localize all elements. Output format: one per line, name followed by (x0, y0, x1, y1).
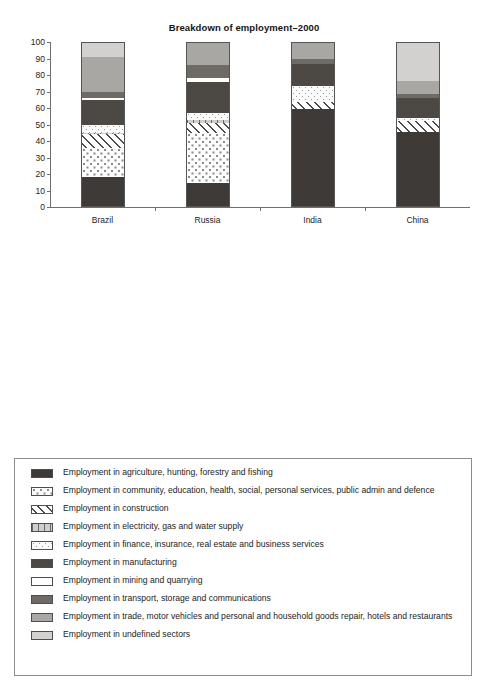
bar-segment-construction (81, 134, 125, 147)
legend-label: Employment in agriculture, hunting, fore… (63, 467, 273, 479)
y-axis-tick-mark (47, 141, 50, 142)
bar-segment-construction (186, 123, 230, 133)
y-axis-tick-label: 20 (36, 169, 45, 179)
y-axis-tick-mark (47, 75, 50, 76)
legend-swatch-agriculture-icon (31, 469, 53, 478)
bar-segment-agriculture (291, 109, 335, 207)
legend-label: Employment in construction (63, 503, 169, 515)
bar-segment-transport (291, 59, 335, 65)
legend-label: Employment in community, education, heal… (63, 485, 434, 497)
bar-segment-manufacturing (291, 64, 335, 85)
y-axis-tick-label: 90 (36, 54, 45, 64)
bar-segment-mining (81, 98, 125, 100)
legend-label: Employment in trade, motor vehicles and … (63, 611, 452, 623)
legend-item-agriculture[interactable]: Employment in agriculture, hunting, fore… (15, 467, 471, 479)
legend-swatch-construction-icon (31, 505, 53, 514)
bar-segment-trade (396, 81, 440, 94)
y-axis-tick-label: 50 (36, 120, 45, 130)
bar-segment-finance (396, 118, 440, 121)
legend-item-community[interactable]: Employment in community, education, heal… (15, 485, 471, 497)
legend-label: Employment in manufacturing (63, 557, 177, 569)
bar-segment-mining (186, 78, 230, 81)
legend-label: Employment in transport, storage and com… (63, 593, 271, 605)
y-axis-tick-label: 70 (36, 87, 45, 97)
legend-item-electricity[interactable]: Employment in electricity, gas and water… (15, 521, 471, 533)
x-axis-label-india: India (303, 215, 321, 225)
legend-swatch-manufacturing-icon (31, 559, 53, 568)
legend-label: Employment in mining and quarrying (63, 575, 202, 587)
y-axis-tick-label: 30 (36, 153, 45, 163)
bar-segment-trade (186, 42, 230, 65)
bar-segment-community (81, 148, 125, 178)
y-axis-line (50, 42, 51, 207)
y-axis-tick-mark (47, 207, 50, 208)
y-axis-tick-mark (47, 125, 50, 126)
bar-segment-agriculture (396, 132, 440, 207)
chart-title-2000: Breakdown of employment–2000 (0, 22, 488, 33)
legend-item-undefined[interactable]: Employment in undefined sectors (15, 629, 471, 641)
bar-segment-transport (396, 94, 440, 98)
legend-label: Employment in undefined sectors (63, 629, 190, 641)
x-axis-label-china: China (406, 215, 428, 225)
y-axis-tick-label: 100 (31, 37, 45, 47)
stacked-bar-russia (186, 42, 230, 207)
x-axis-label-brazil: Brazil (92, 215, 113, 225)
bar-segment-finance (186, 113, 230, 120)
y-axis-tick-mark (47, 42, 50, 43)
x-axis-tick-mark (365, 207, 366, 211)
y-axis-tick-label: 40 (36, 136, 45, 146)
bar-segment-construction (396, 121, 440, 132)
bar-segment-manufacturing (186, 82, 230, 113)
bar-segment-trade (81, 57, 125, 92)
bar-segment-community (186, 133, 230, 183)
bar-segment-manufacturing (396, 98, 440, 118)
y-axis-tick-label: 10 (36, 186, 45, 196)
legend-swatch-undefined-icon (31, 631, 53, 640)
y-axis-tick-mark (47, 92, 50, 93)
x-axis-tick-mark (155, 207, 156, 211)
bar-segment-electricity (81, 133, 125, 135)
stacked-bar-india (291, 42, 335, 207)
bar-segment-finance (291, 86, 335, 103)
legend-item-mining[interactable]: Employment in mining and quarrying (15, 575, 471, 587)
legend-item-construction[interactable]: Employment in construction (15, 503, 471, 515)
legend-swatch-community-icon (31, 487, 53, 496)
legend-label: Employment in electricity, gas and water… (63, 521, 243, 533)
legend-item-finance[interactable]: Employment in finance, insurance, real e… (15, 539, 471, 551)
legend-label: Employment in finance, insurance, real e… (63, 539, 324, 551)
chart-panel-2000: Breakdown of employment–2000 01020304050… (0, 0, 488, 235)
bar-segment-manufacturing (81, 100, 125, 125)
bar-segment-construction (291, 102, 335, 109)
bar-segment-transport (81, 92, 125, 99)
bar-segment-agriculture (81, 177, 125, 207)
bar-segment-undefined (81, 42, 125, 57)
stacked-bar-brazil (81, 42, 125, 207)
legend-swatch-finance-icon (31, 541, 53, 550)
plot-area-2000: 0102030405060708090100BrazilRussiaIndiaC… (50, 42, 470, 207)
y-axis-tick-mark (47, 174, 50, 175)
y-axis-tick-mark (47, 158, 50, 159)
legend-item-trade[interactable]: Employment in trade, motor vehicles and … (15, 611, 471, 623)
chart-panel-2010: Breakdown of employment–2010 -1020304050… (0, 235, 488, 453)
stacked-bar-china (396, 42, 440, 207)
legend-swatch-mining-icon (31, 577, 53, 586)
y-axis-tick-mark (47, 59, 50, 60)
y-axis-tick-label: 60 (36, 103, 45, 113)
y-axis-tick-label: 0 (40, 202, 45, 212)
x-axis-label-russia: Russia (195, 215, 221, 225)
y-axis-tick-mark (47, 191, 50, 192)
legend-swatch-transport-icon (31, 595, 53, 604)
y-axis-tick-label: 80 (36, 70, 45, 80)
legend-item-manufacturing[interactable]: Employment in manufacturing (15, 557, 471, 569)
legend-swatch-trade-icon (31, 613, 53, 622)
chart-legend: Employment in agriculture, hunting, fore… (14, 458, 472, 676)
x-axis-tick-mark (260, 207, 261, 211)
bar-segment-transport (186, 65, 230, 78)
bar-segment-trade (291, 42, 335, 59)
legend-swatch-electricity-icon (31, 523, 53, 532)
bar-segment-agriculture (186, 183, 230, 207)
bar-segment-undefined (396, 42, 440, 81)
y-axis-tick-mark (47, 108, 50, 109)
bar-segment-electricity (186, 120, 230, 122)
legend-item-transport[interactable]: Employment in transport, storage and com… (15, 593, 471, 605)
